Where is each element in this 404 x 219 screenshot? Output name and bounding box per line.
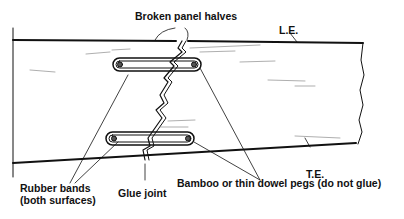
upper-left-peg — [118, 62, 123, 67]
lower-left-peg — [112, 136, 117, 141]
lower-rubber-band — [106, 132, 194, 145]
label-rubber-bands: Rubber bands — [20, 182, 91, 194]
label-leading-edge: L.E. — [279, 24, 298, 36]
label-glue-joint: Glue joint — [118, 187, 166, 199]
lower-right-peg — [186, 136, 191, 141]
right-torn-edge — [358, 43, 364, 144]
upper-rubber-band — [113, 58, 201, 71]
leading-edge-line — [13, 40, 176, 41]
leader-lines — [70, 28, 310, 183]
label-rubber-bands-note: (both surfaces) — [20, 194, 96, 206]
trailing-edge-line — [13, 143, 356, 163]
diagram-canvas: Broken panel halves L.E. T.E. Rubber ban… — [0, 0, 404, 219]
upper-right-peg — [192, 62, 197, 67]
grain-marks — [30, 45, 340, 138]
label-broken-panel-halves: Broken panel halves — [135, 10, 237, 22]
label-pegs: Bamboo or thin dowel pegs (do not glue) — [177, 177, 381, 189]
